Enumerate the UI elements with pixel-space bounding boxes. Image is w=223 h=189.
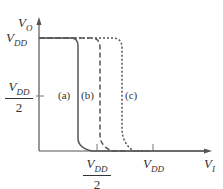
curve-c-label: (c) <box>125 90 137 101</box>
y-tick-label-vdd: VDD <box>6 31 27 48</box>
transfer-characteristic-plot <box>0 0 223 189</box>
x-axis-label: VI <box>204 157 215 174</box>
curve-b-label: (b) <box>81 90 94 101</box>
y-axis-arrow-icon <box>37 17 42 25</box>
y-tick-label-half: VDD 2 <box>5 80 33 114</box>
x-tick-label-vdd: VDD <box>143 157 164 174</box>
x-tick-label-half: VDD 2 <box>83 157 111 189</box>
curve-a-label: (a) <box>58 90 70 101</box>
